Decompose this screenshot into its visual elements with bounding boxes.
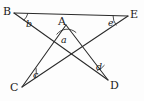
angle-label-e: e <box>108 18 114 28</box>
vertex-label-B: B <box>3 6 11 17</box>
star-polygon-svg <box>0 0 144 101</box>
angle-label-d: d <box>96 62 102 72</box>
geometry-figure: B A E C D a b c d e <box>0 0 144 101</box>
vertex-label-C: C <box>10 82 18 93</box>
vertex-label-E: E <box>130 9 138 20</box>
vertex-label-D: D <box>110 80 119 91</box>
edge-B-E <box>14 13 128 16</box>
angle-label-a: a <box>61 35 67 45</box>
angle-label-c: c <box>33 70 38 80</box>
angle-label-b: b <box>26 19 32 29</box>
vertex-label-A: A <box>58 16 66 27</box>
